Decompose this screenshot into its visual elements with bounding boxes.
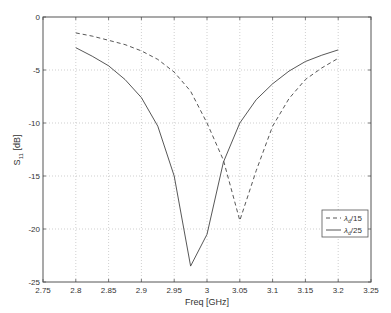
x-tick-label: 2.95 (166, 286, 182, 295)
y-tick-label: 0 (36, 13, 41, 22)
legend-label-2: λd/25 (343, 226, 362, 236)
x-tick-label: 2.85 (101, 286, 117, 295)
x-tick-label: 3.25 (363, 286, 379, 295)
x-tick-label: 3.05 (232, 286, 248, 295)
y-tick-label: -20 (28, 225, 40, 234)
x-tick-label: 3 (205, 286, 210, 295)
y-tick-label: -5 (33, 66, 41, 75)
legend-label-1: λd/15 (343, 214, 362, 224)
series-line-dashed (76, 33, 338, 221)
y-tick-label: -25 (28, 278, 40, 287)
grid-lines (43, 17, 371, 282)
x-tick-labels: 2.752.82.852.92.9533.053.13.153.23.25 (35, 286, 379, 295)
x-axis-label: Freq [GHz] (185, 297, 229, 307)
x-tick-label: 2.75 (35, 286, 51, 295)
x-tick-label: 2.8 (70, 286, 82, 295)
x-tick-label: 3.2 (333, 286, 345, 295)
x-tick-label: 2.9 (136, 286, 148, 295)
x-tick-label: 3.1 (267, 286, 279, 295)
y-axis-label: S11 [dB] (12, 135, 24, 166)
x-tick-label: 3.15 (298, 286, 314, 295)
legend: λd/15 λd/25 (322, 210, 368, 237)
y-tick-label: -10 (28, 119, 40, 128)
y-tick-labels: 0-5-10-15-20-25 (28, 13, 40, 287)
y-tick-label: -15 (28, 172, 40, 181)
s11-chart: 2.752.82.852.92.9533.053.13.153.23.25 0-… (0, 0, 391, 313)
